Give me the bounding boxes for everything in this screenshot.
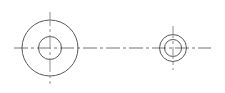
technical-drawing-canvas bbox=[0, 0, 225, 93]
drawing-svg bbox=[0, 0, 225, 93]
